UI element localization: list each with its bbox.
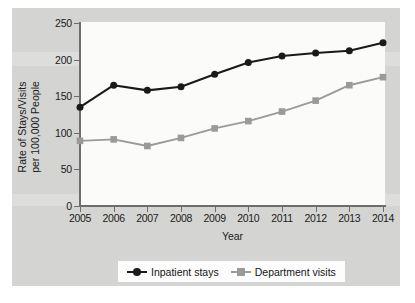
data-point-circle xyxy=(178,83,185,90)
data-point-circle xyxy=(380,39,387,46)
legend-item-department-visits: Department visits xyxy=(231,266,336,278)
data-point-square xyxy=(144,143,151,150)
legend-item-inpatient-stays: Inpatient stays xyxy=(127,266,219,278)
data-point-square xyxy=(380,74,387,81)
data-point-circle xyxy=(312,50,319,57)
data-point-square xyxy=(245,118,252,125)
data-point-square xyxy=(211,125,218,132)
series-line xyxy=(80,43,383,107)
data-point-circle xyxy=(110,82,117,89)
chart-figure: 050100150200250 200520062007200820092010… xyxy=(0,0,415,303)
series-layer xyxy=(0,0,415,303)
data-point-square xyxy=(312,97,319,104)
data-point-square xyxy=(77,138,84,145)
data-point-square xyxy=(110,136,117,143)
data-point-square xyxy=(346,82,353,89)
data-point-circle xyxy=(144,87,151,94)
chart-legend: Inpatient stays Department visits xyxy=(118,261,345,282)
data-point-square xyxy=(279,108,286,115)
legend-label-department-visits: Department visits xyxy=(255,266,336,278)
circle-marker-icon xyxy=(127,267,147,277)
data-point-square xyxy=(178,135,185,142)
data-point-circle xyxy=(279,52,286,59)
data-point-circle xyxy=(346,47,353,54)
data-point-circle xyxy=(245,59,252,66)
square-marker-icon xyxy=(231,267,251,277)
legend-label-inpatient-stays: Inpatient stays xyxy=(151,266,219,278)
data-point-circle xyxy=(211,71,218,78)
data-point-circle xyxy=(77,104,84,111)
